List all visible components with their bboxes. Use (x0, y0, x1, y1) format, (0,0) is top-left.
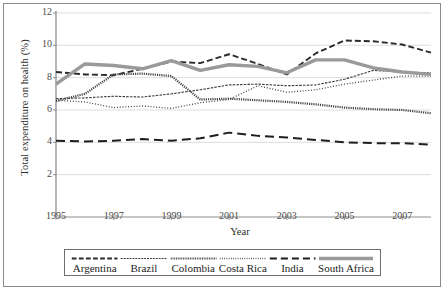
x-tick-label: 1999 (151, 210, 191, 221)
legend-label: Brazil (130, 262, 157, 274)
x-tick-label: 1995 (36, 210, 76, 221)
series-line-costa-rica (56, 76, 431, 108)
legend-label: South Africa (318, 262, 374, 274)
legend-swatch-argentina-icon (71, 255, 118, 262)
series-line-india (56, 133, 431, 145)
plot-area-wrapper: Total expenditure on health (%) Year 121… (0, 0, 445, 291)
legend-label: Costa Rica (219, 262, 267, 274)
legend-item-colombia[interactable]: Colombia (169, 255, 218, 274)
y-tick-label: 4 (30, 135, 52, 146)
legend-swatch-south-africa-icon (318, 255, 374, 262)
x-tick-label: 2007 (382, 210, 422, 221)
legend-swatch-brazil-icon (120, 255, 167, 262)
y-axis-title: Total expenditure on health (%) (19, 18, 30, 198)
legend-item-south-africa[interactable]: South Africa (317, 255, 375, 274)
legend-swatch-india-icon (269, 255, 316, 262)
legend-item-argentina[interactable]: Argentina (70, 255, 119, 274)
legend-label: Argentina (73, 262, 117, 274)
y-tick-label: 10 (30, 38, 52, 49)
chart-legend: ArgentinaBrazilColombiaCosta RicaIndiaSo… (64, 249, 381, 276)
x-tick-label: 1997 (94, 210, 134, 221)
y-tick-label: 12 (30, 6, 52, 17)
legend-label: Colombia (172, 262, 215, 274)
x-tick-label: 2005 (324, 210, 364, 221)
legend-swatch-colombia-icon (170, 255, 217, 262)
y-tick-label: 8 (30, 71, 52, 82)
legend-item-brazil[interactable]: Brazil (119, 255, 168, 274)
legend-label: India (281, 262, 304, 274)
y-tick-label: 2 (30, 168, 52, 179)
plot-canvas (0, 0, 445, 291)
legend-item-india[interactable]: India (268, 255, 317, 274)
y-tick-label: 6 (30, 103, 52, 114)
x-tick-label: 2003 (267, 210, 307, 221)
legend-item-costa-rica[interactable]: Costa Rica (218, 255, 268, 274)
x-axis-title: Year (50, 226, 430, 237)
legend-swatch-costa-rica-icon (219, 255, 267, 262)
x-tick-label: 2001 (209, 210, 249, 221)
chart-figure: Total expenditure on health (%) Year 121… (0, 0, 445, 291)
